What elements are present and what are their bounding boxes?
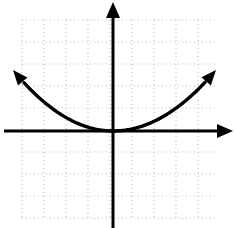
- graph-figure: [0, 0, 236, 228]
- coordinate-plane: [0, 0, 236, 228]
- canvas-background: [0, 0, 236, 228]
